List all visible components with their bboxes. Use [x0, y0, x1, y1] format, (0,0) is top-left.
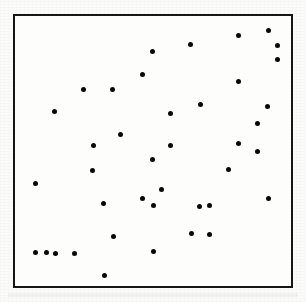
scatter-point	[91, 143, 96, 148]
scatter-point	[236, 33, 241, 38]
scatter-point	[255, 149, 260, 154]
scatter-point	[52, 109, 57, 114]
scatter-point	[188, 42, 193, 47]
scatter-point	[275, 57, 280, 62]
scatter-point	[207, 203, 212, 208]
scatter-point	[159, 187, 164, 192]
scatter-point	[140, 196, 145, 201]
scatter-point	[197, 204, 202, 209]
scatter-point	[189, 231, 194, 236]
scatter-point	[266, 196, 271, 201]
scatter-point	[72, 251, 77, 256]
figure-root	[0, 0, 306, 302]
scatter-point	[44, 250, 49, 255]
scatter-point	[198, 102, 203, 107]
scatter-plot-area	[15, 16, 291, 286]
scatter-point	[168, 143, 173, 148]
scatter-point	[150, 49, 155, 54]
plot-frame-border	[13, 14, 293, 288]
scatter-point	[265, 104, 270, 109]
scatter-point	[255, 121, 260, 126]
scatter-point	[81, 87, 86, 92]
scatter-point	[151, 249, 156, 254]
scatter-point	[118, 132, 123, 137]
scatter-point	[111, 234, 116, 239]
scatter-point	[275, 43, 280, 48]
scatter-point	[226, 167, 231, 172]
scatter-point	[140, 72, 145, 77]
scatter-point	[90, 168, 95, 173]
scatter-point	[266, 28, 271, 33]
scatter-point	[207, 232, 212, 237]
scatter-point	[168, 111, 173, 116]
scatter-point	[33, 181, 38, 186]
scatter-point	[53, 251, 58, 256]
scatter-point	[150, 157, 155, 162]
scatter-point	[33, 250, 38, 255]
scatter-point	[102, 273, 107, 278]
page-edge-smudge	[8, 293, 298, 297]
scatter-point	[236, 141, 241, 146]
scatter-point	[101, 201, 106, 206]
scatter-point	[151, 203, 156, 208]
scatter-point	[236, 79, 241, 84]
scatter-point	[110, 87, 115, 92]
